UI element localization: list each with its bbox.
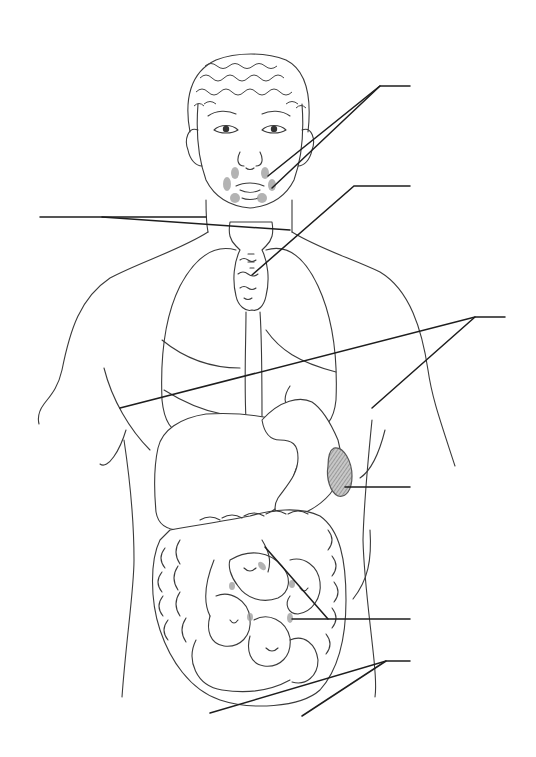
waist-left: [122, 440, 134, 697]
intestinal-gland-spot: [229, 582, 235, 590]
leader-diaphragm[interactable]: [120, 317, 505, 408]
salivary-gland-spot: [223, 177, 231, 191]
salivary-gland-spot: [257, 193, 267, 203]
intestinal-gland-spot: [287, 613, 293, 623]
eye-right: [262, 126, 286, 134]
salivary-gland-spot: [261, 167, 269, 179]
rib-right: [360, 430, 385, 478]
leader-thyroid[interactable]: [252, 186, 410, 275]
mouth: [236, 183, 264, 192]
salivary-gland-spot: [230, 193, 240, 203]
chest-left: [104, 368, 150, 450]
intestinal-gland-spot: [247, 613, 253, 621]
hair-texture: [194, 64, 306, 109]
hip-right: [353, 530, 370, 599]
salivary-gland-spot: [231, 167, 239, 179]
intestines: [153, 510, 347, 706]
flank-left: [100, 430, 126, 465]
large-intestine: [153, 510, 347, 706]
anatomy-diagram: [0, 0, 536, 757]
esophagus: [245, 312, 262, 420]
nose: [238, 152, 262, 170]
ear-left: [186, 129, 202, 166]
eyebrow-right: [262, 111, 290, 116]
chin: [242, 198, 258, 200]
shoulder-left: [39, 232, 208, 424]
eye-left: [214, 126, 238, 134]
leader-salivary-glands[interactable]: [268, 86, 410, 188]
spleen: [327, 448, 352, 496]
head: [186, 54, 313, 208]
lung-right: [162, 249, 240, 439]
eyebrow-left: [208, 111, 236, 116]
thyroid-trachea: [229, 222, 273, 420]
